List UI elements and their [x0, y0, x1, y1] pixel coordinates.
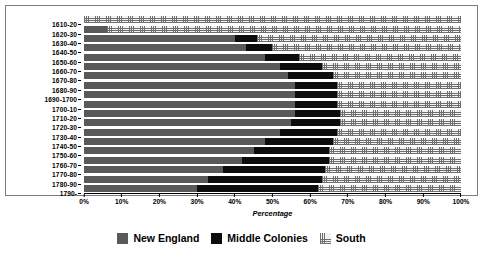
bar-segment-south[interactable] — [299, 54, 461, 61]
y-axis-tick-mark — [78, 109, 81, 110]
bar-segment-south[interactable] — [337, 91, 461, 98]
stacked-bar[interactable] — [84, 101, 461, 108]
y-axis-tick-mark — [78, 118, 81, 119]
stacked-bar[interactable] — [84, 26, 461, 33]
stacked-bar-chart: 1610-201620-301630-401640-501650-601660-… — [0, 0, 483, 265]
bar-segment-middle-colonies[interactable] — [280, 63, 321, 70]
bar-segment-south[interactable] — [340, 119, 461, 126]
bar-segment-middle-colonies[interactable] — [291, 119, 340, 126]
y-axis-tick-mark — [78, 146, 81, 147]
stacked-bar[interactable] — [84, 166, 461, 173]
stacked-bar[interactable] — [84, 16, 461, 23]
bar-segment-middle-colonies[interactable] — [246, 44, 272, 51]
bar-segment-middle-colonies[interactable] — [295, 101, 336, 108]
bar-segment-south[interactable] — [333, 138, 461, 145]
bar-segment-new-england[interactable] — [84, 26, 107, 33]
bar-segment-new-england[interactable] — [84, 91, 295, 98]
bar-segment-south[interactable] — [84, 16, 461, 23]
stacked-bar[interactable] — [84, 147, 461, 154]
bar-segment-new-england[interactable] — [84, 138, 265, 145]
stacked-bar[interactable] — [84, 91, 461, 98]
bar-segment-south[interactable] — [337, 101, 461, 108]
bar-segment-new-england[interactable] — [84, 176, 208, 183]
bar-segment-middle-colonies[interactable] — [242, 157, 329, 164]
bar-segment-new-england[interactable] — [84, 63, 280, 70]
bar-segment-south[interactable] — [337, 82, 461, 89]
stacked-bar[interactable] — [84, 82, 461, 89]
y-axis-tick-label: 1680-90 — [11, 86, 81, 95]
bar-segment-new-england[interactable] — [84, 101, 295, 108]
bar-row — [84, 24, 461, 33]
bar-segment-south[interactable] — [322, 176, 461, 183]
bar-segment-new-england[interactable] — [84, 54, 265, 61]
bar-segment-new-england[interactable] — [84, 166, 223, 173]
stacked-bar[interactable] — [84, 72, 461, 79]
x-axis-ticks: 0%10%20%30%40%50%60%70%80%90%100% — [84, 194, 461, 210]
stacked-bar[interactable] — [84, 185, 461, 192]
stacked-bar[interactable] — [84, 54, 461, 61]
stacked-bar[interactable] — [84, 129, 461, 136]
bar-segment-south[interactable] — [257, 35, 461, 42]
bar-segment-south[interactable] — [272, 44, 461, 51]
bar-segment-middle-colonies[interactable] — [223, 166, 325, 173]
y-axis-category-labels: 1610-201620-301630-401640-501650-601660-… — [11, 20, 81, 198]
bar-segment-south[interactable] — [337, 129, 461, 136]
bar-segment-south[interactable] — [329, 157, 461, 164]
bar-segment-middle-colonies[interactable] — [208, 176, 321, 183]
bar-segment-middle-colonies[interactable] — [295, 82, 336, 89]
bar-row — [84, 81, 461, 90]
bar-segment-new-england[interactable] — [84, 110, 295, 117]
x-axis-tick-mark — [461, 194, 462, 197]
legend-label: New England — [133, 232, 199, 244]
bar-segment-new-england[interactable] — [84, 82, 295, 89]
stacked-bar[interactable] — [84, 44, 461, 51]
legend-item[interactable]: Middle Colonies — [211, 232, 308, 244]
bar-segment-south[interactable] — [333, 72, 461, 79]
bar-segment-middle-colonies[interactable] — [265, 54, 299, 61]
bar-segment-south[interactable] — [318, 185, 461, 192]
y-axis-tick-mark — [78, 174, 81, 175]
legend-item[interactable]: South — [320, 232, 366, 244]
bar-segment-middle-colonies[interactable] — [295, 110, 340, 117]
bar-segment-new-england[interactable] — [84, 147, 254, 154]
x-axis-tick-mark — [121, 194, 122, 197]
bar-segment-new-england[interactable] — [84, 157, 242, 164]
bar-segment-south[interactable] — [325, 166, 461, 173]
stacked-bar[interactable] — [84, 35, 461, 42]
bar-segment-south[interactable] — [340, 110, 461, 117]
stacked-bar[interactable] — [84, 138, 461, 145]
bar-segment-new-england[interactable] — [84, 129, 280, 136]
y-axis-tick-mark — [78, 137, 81, 138]
stacked-bar[interactable] — [84, 110, 461, 117]
bar-segment-middle-colonies[interactable] — [265, 138, 333, 145]
x-axis-tick-mark — [385, 194, 386, 197]
plot-area: 1610-201620-301630-401640-501650-601660-… — [5, 5, 478, 196]
bar-segment-south[interactable] — [322, 63, 461, 70]
x-axis-tick-label: 40% — [228, 194, 241, 205]
y-axis-tick-mark — [78, 80, 81, 81]
stacked-bar[interactable] — [84, 176, 461, 183]
bar-segment-south[interactable] — [107, 26, 461, 33]
stacked-bar[interactable] — [84, 119, 461, 126]
bar-segment-new-england[interactable] — [84, 72, 288, 79]
bar-segment-middle-colonies[interactable] — [280, 129, 337, 136]
legend-label: Middle Colonies — [227, 232, 308, 244]
legend-item[interactable]: New England — [117, 232, 199, 244]
bar-segment-middle-colonies[interactable] — [254, 147, 329, 154]
y-axis-tick-label: 1770-80 — [11, 170, 81, 179]
stacked-bar[interactable] — [84, 63, 461, 70]
bar-segment-middle-colonies[interactable] — [288, 72, 333, 79]
bar-segment-middle-colonies[interactable] — [235, 35, 258, 42]
bar-segment-new-england[interactable] — [84, 119, 291, 126]
x-axis-tick-label: 80% — [379, 194, 392, 205]
bar-segment-middle-colonies[interactable] — [197, 185, 318, 192]
stacked-bar[interactable] — [84, 157, 461, 164]
bar-segment-new-england[interactable] — [84, 185, 197, 192]
x-axis-tick-mark — [347, 194, 348, 197]
cross-hatch-swatch — [320, 233, 331, 244]
bar-row — [84, 62, 461, 71]
bar-segment-new-england[interactable] — [84, 44, 246, 51]
bar-segment-middle-colonies[interactable] — [295, 91, 336, 98]
bar-segment-south[interactable] — [329, 147, 461, 154]
bar-segment-new-england[interactable] — [84, 35, 235, 42]
